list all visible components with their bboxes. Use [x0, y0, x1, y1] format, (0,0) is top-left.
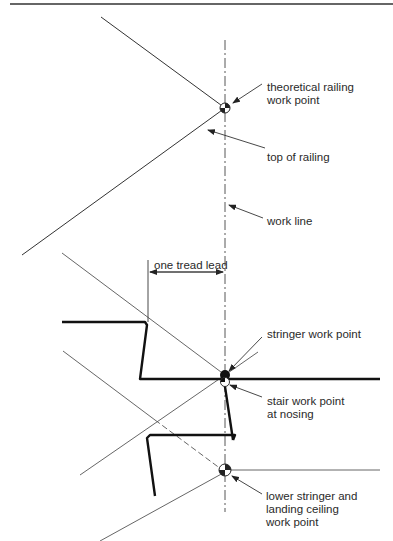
railing-upper-line [101, 17, 225, 108]
label-line: work point [266, 516, 357, 529]
ascending-line-low [100, 472, 225, 541]
lower-work-point-symbol [219, 464, 231, 476]
lower-stringer-dashed [155, 420, 225, 472]
stringer-work-point-symbol [220, 370, 230, 387]
label-lower-stringer-landing-ceiling-work-point: lower stringer and landing ceiling work … [266, 490, 357, 529]
leader-top-of-railing [208, 130, 265, 148]
ascending-line-upper [225, 352, 258, 375]
label-line: landing ceiling [266, 503, 357, 516]
leader-stringer-work-point [229, 337, 262, 371]
ascending-line-mid [80, 375, 225, 475]
label-line: stair work point [267, 395, 344, 408]
label-one-tread-lead: one tread lead [154, 259, 228, 272]
label-stringer-work-point: stringer work point [267, 328, 361, 341]
label-line: lower stringer and [266, 490, 357, 503]
label-top-of-railing: top of railing [267, 151, 330, 164]
leader-stair-nosing [230, 385, 262, 397]
label-line: at nosing [267, 408, 344, 421]
label-stair-work-point-at-nosing: stair work point at nosing [267, 395, 344, 421]
railing-work-point-symbol [220, 103, 230, 113]
stair-work-point-diagram: theoretical railing work point top of ra… [0, 0, 393, 541]
label-work-line: work line [267, 215, 312, 228]
top-of-railing-line [22, 108, 225, 255]
leader-work-line [229, 205, 263, 218]
leader-lower-work-point [232, 476, 262, 494]
leader-theoretical-railing [233, 84, 262, 103]
label-line: theoretical railing [267, 81, 354, 94]
label-line: work point [267, 94, 354, 107]
label-theoretical-railing-work-point: theoretical railing work point [267, 81, 354, 107]
